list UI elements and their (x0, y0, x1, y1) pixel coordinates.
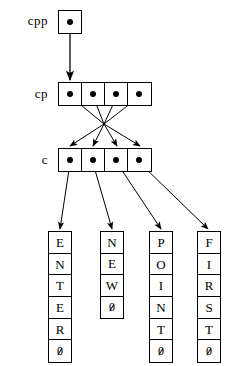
null-terminator-cell: 0 (101, 297, 123, 318)
char-cell: T (198, 319, 220, 341)
cp-cell-1 (82, 83, 105, 105)
null-terminator-cell: 0 (49, 340, 71, 362)
char-cell: E (101, 254, 123, 276)
char-cell: R (198, 275, 220, 297)
arrow-cross-to-c-bundle (70, 124, 140, 146)
string-column-point: P O I N T 0 (149, 231, 173, 363)
c-cell-0 (59, 149, 82, 171)
c-cell-3 (128, 149, 151, 171)
c-pointer-dot-1 (90, 157, 96, 163)
char-cell: E (49, 232, 71, 254)
char-cell: T (150, 319, 172, 341)
null-glyph: 0 (109, 301, 115, 313)
cp-array (58, 82, 152, 106)
cp-pointer-dot-2 (113, 91, 119, 97)
cp-cell-2 (105, 83, 128, 105)
cp-pointer-dot-3 (136, 91, 142, 97)
null-terminator-cell: 0 (198, 340, 220, 362)
arrow-c2-to-point (117, 163, 161, 229)
string-column-new: N E W 0 (100, 231, 124, 319)
char-cell: I (198, 254, 220, 276)
char-cell: T (49, 275, 71, 297)
string-column-first: F I R S T 0 (197, 231, 221, 363)
cp-pointer-dot-0 (67, 91, 73, 97)
char-cell: F (198, 232, 220, 254)
char-cell: N (49, 254, 71, 276)
label-cp: cp (2, 86, 48, 102)
label-c: c (2, 152, 48, 168)
cp-pointer-dot-1 (90, 91, 96, 97)
null-glyph: 0 (57, 345, 63, 357)
arrow-c3-to-first (140, 163, 208, 229)
char-cell: P (150, 232, 172, 254)
char-cell: R (49, 319, 71, 341)
c-array (58, 148, 152, 172)
cp-cell-0 (59, 83, 82, 105)
char-cell: S (198, 297, 220, 319)
cp-cell-3 (128, 83, 151, 105)
char-cell: O (150, 254, 172, 276)
char-cell: N (101, 232, 123, 254)
string-column-enter: E N T E R 0 (48, 231, 72, 363)
null-glyph: 0 (158, 345, 164, 357)
arrow-c0-to-enter (60, 163, 70, 229)
label-cpp: cpp (2, 13, 48, 29)
arrow-c1-to-new (93, 163, 112, 229)
c-pointer-dot-0 (67, 157, 73, 163)
pointer-diagram: cpp cp c E N (0, 0, 242, 366)
null-terminator-cell: 0 (150, 340, 172, 362)
c-pointer-dot-3 (136, 157, 142, 163)
c-pointer-dot-2 (113, 157, 119, 163)
null-glyph: 0 (206, 345, 212, 357)
cpp-pointer-dot (67, 19, 73, 25)
char-cell: E (49, 297, 71, 319)
cpp-box (58, 10, 82, 34)
c-cell-1 (82, 149, 105, 171)
char-cell: I (150, 275, 172, 297)
char-cell: N (150, 297, 172, 319)
c-cell-2 (105, 149, 128, 171)
char-cell: W (101, 275, 123, 297)
